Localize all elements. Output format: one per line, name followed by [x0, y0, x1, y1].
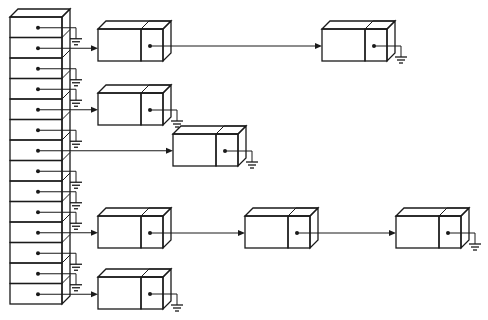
node-data-field — [396, 216, 439, 248]
list-node-10-1 — [245, 208, 318, 248]
node-data-field — [98, 216, 141, 248]
node-next-pointer-field — [141, 277, 163, 309]
pointer-arrow — [150, 43, 322, 49]
list-node-13-0 — [98, 269, 171, 309]
ground-symbol-icon — [70, 264, 82, 270]
pointer-arrow — [38, 230, 98, 236]
ground-symbol-icon — [70, 141, 82, 147]
pointer-dot-icon — [148, 108, 152, 112]
pointer-dot-icon — [148, 292, 152, 296]
node-data-field — [98, 277, 141, 309]
list-node-4-0 — [98, 85, 171, 125]
ground-symbol-icon — [70, 223, 82, 229]
node-next-pointer-field — [141, 216, 163, 248]
list-node-1-1 — [322, 21, 395, 61]
pointer-arrow — [38, 148, 173, 154]
hash-table-diagram — [0, 0, 488, 320]
node-next-pointer-field — [439, 216, 461, 248]
pointer-arrow — [38, 45, 98, 51]
linked-list-nodes — [98, 21, 469, 309]
arrowhead-icon — [91, 45, 98, 51]
ground-symbol-icon — [70, 39, 82, 45]
node-data-field — [173, 134, 216, 166]
arrowhead-icon — [91, 291, 98, 297]
ground-symbol-icon — [70, 182, 82, 188]
pointer-arrow — [38, 107, 98, 113]
pointer-links — [38, 28, 481, 311]
ground-symbol-icon — [70, 100, 82, 106]
arrowhead-icon — [389, 230, 396, 236]
ground-symbol-icon — [395, 57, 407, 63]
pointer-arrow — [150, 230, 245, 236]
arrowhead-icon — [166, 148, 173, 154]
arrowhead-icon — [315, 43, 322, 49]
pointer-arrow — [38, 291, 98, 297]
arrowhead-icon — [91, 230, 98, 236]
node-next-pointer-field — [288, 216, 310, 248]
ground-symbol-icon — [70, 203, 82, 209]
list-node-6-0 — [173, 126, 246, 166]
ground-symbol-icon — [171, 305, 183, 311]
pointer-dot-icon — [148, 231, 152, 235]
array-top-face — [10, 9, 70, 17]
list-node-10-2 — [396, 208, 469, 248]
node-next-pointer-field — [216, 134, 238, 166]
node-next-pointer-field — [141, 93, 163, 125]
ground-symbol-icon — [70, 80, 82, 86]
node-data-field — [98, 93, 141, 125]
pointer-dot-icon — [148, 44, 152, 48]
ground-symbol-icon — [469, 244, 481, 250]
pointer-dot-icon — [446, 231, 450, 235]
arrowhead-icon — [238, 230, 245, 236]
ground-symbol-icon — [70, 285, 82, 291]
pointer-dot-icon — [295, 231, 299, 235]
list-node-1-0 — [98, 21, 171, 61]
list-node-10-0 — [98, 208, 171, 248]
pointer-arrow — [297, 230, 396, 236]
node-next-pointer-field — [141, 29, 163, 61]
pointer-dot-icon — [372, 44, 376, 48]
arrowhead-icon — [91, 107, 98, 113]
bucket-array — [10, 9, 70, 304]
ground-symbol-icon — [246, 162, 258, 168]
node-data-field — [98, 29, 141, 61]
node-next-pointer-field — [365, 29, 387, 61]
pointer-dot-icon — [223, 149, 227, 153]
node-data-field — [322, 29, 365, 61]
node-data-field — [245, 216, 288, 248]
